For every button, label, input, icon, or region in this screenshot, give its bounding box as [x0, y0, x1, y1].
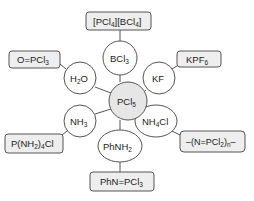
svg-text:P(NH2)4Cl: P(NH2)4Cl: [11, 138, 54, 150]
reagent-node-h2o: H2O: [64, 62, 96, 94]
reagent-node-nh3: NH3: [64, 105, 96, 137]
connector-h2o-product: [60, 64, 66, 69]
reagent-node-phnh2: PhNH2: [98, 130, 142, 162]
product-box-opcl3: O=PCl3: [9, 51, 60, 68]
svg-text:NH4Cl: NH4Cl: [142, 116, 168, 128]
connector-nh3-product: [62, 131, 67, 135]
reagent-node-bcl3: BCl3: [103, 41, 137, 75]
product-box-kpf6: KPF6: [177, 51, 221, 67]
svg-text:PhNH2: PhNH2: [103, 141, 132, 153]
connector-kf-product: [172, 66, 177, 69]
connector-pcl5-kf: [145, 90, 146, 91]
svg-text:KF: KF: [152, 73, 164, 84]
center-node-pcl5: PCl5: [109, 82, 147, 120]
connector-nh4cl-product: [172, 131, 180, 135]
pcl5-reaction-diagram: [PCl4][BCl4] O=PCl3 KPF6 P(NH2)4Cl –(N=P…: [0, 0, 254, 201]
product-box-phnpcl3: PhN=PCl3: [90, 172, 154, 191]
product-box-pcl4bcl4: [PCl4][BCl4]: [86, 12, 151, 30]
reagent-node-kf: KF: [143, 62, 175, 94]
svg-text:[PCl4][BCl4]: [PCl4][BCl4]: [93, 16, 141, 28]
svg-text:O=PCl3: O=PCl3: [17, 54, 49, 66]
svg-text:PhN=PCl3: PhN=PCl3: [100, 176, 143, 188]
product-box-npcl2n: –(N=PCl2)n–: [180, 131, 245, 152]
connector-pcl5-nh3: [95, 109, 111, 114]
product-box-pnh24cl: P(NH2)4Cl: [5, 134, 63, 153]
connector-pcl5-h2o: [95, 87, 111, 93]
